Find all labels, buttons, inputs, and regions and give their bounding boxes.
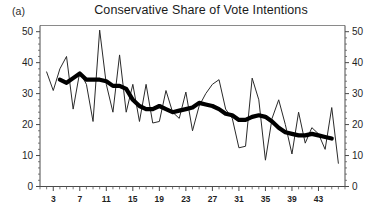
line-chart: 01020304050 01020304050 3711151923273135… <box>0 0 381 217</box>
x-tick-label: 23 <box>181 194 191 204</box>
left-tick-label: 0 <box>27 181 33 192</box>
figure-container: (a) Conservative Share of Vote Intention… <box>0 0 381 217</box>
x-tick-label: 43 <box>314 194 324 204</box>
x-tick-label: 19 <box>155 194 165 204</box>
series-line-smoothed <box>60 73 332 138</box>
left-axis: 01020304050 <box>22 26 40 192</box>
x-tick-label: 27 <box>208 194 218 204</box>
right-tick-label: 20 <box>352 119 364 130</box>
left-tick-label: 40 <box>22 57 34 68</box>
left-tick-label: 20 <box>22 119 34 130</box>
right-tick-label: 50 <box>352 26 364 37</box>
x-tick-label: 11 <box>102 194 111 204</box>
right-tick-label: 40 <box>352 57 364 68</box>
series-line-raw <box>47 30 339 163</box>
left-tick-label: 50 <box>22 26 34 37</box>
x-tick-label: 7 <box>77 194 82 204</box>
right-tick-label: 0 <box>352 181 358 192</box>
x-tick-label: 15 <box>128 194 138 204</box>
left-tick-label: 10 <box>22 150 34 161</box>
left-tick-label: 30 <box>22 88 34 99</box>
data-series <box>47 30 339 163</box>
x-axis: 37111519232731353943 <box>40 187 345 204</box>
x-tick-label: 31 <box>234 194 244 204</box>
right-tick-label: 30 <box>352 88 364 99</box>
right-tick-label: 10 <box>352 150 364 161</box>
right-axis: 01020304050 <box>345 26 364 192</box>
x-tick-label: 3 <box>51 194 56 204</box>
x-tick-label: 35 <box>261 194 271 204</box>
x-tick-label: 39 <box>287 194 297 204</box>
